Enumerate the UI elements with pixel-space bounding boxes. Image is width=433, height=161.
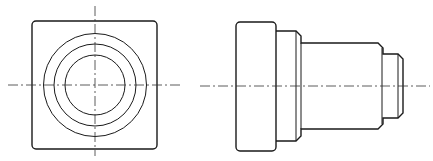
side-view <box>200 22 430 151</box>
technical-drawing <box>0 0 433 161</box>
front-view <box>8 6 180 156</box>
flange-outline <box>236 22 276 151</box>
